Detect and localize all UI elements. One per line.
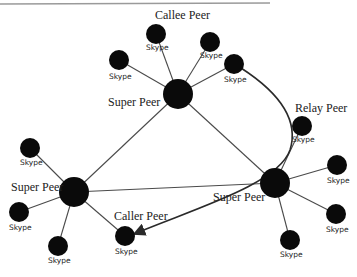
caller-peer-node xyxy=(115,226,135,246)
leaf-node xyxy=(224,54,244,74)
callee-peer-label: Callee Peer xyxy=(155,8,210,22)
callee-peer-node xyxy=(146,24,166,44)
super-peer-label-right: Super Peer xyxy=(213,190,265,204)
super-peer-left xyxy=(59,177,89,207)
top-rule xyxy=(0,3,270,4)
leaf-label: Skype xyxy=(48,256,71,265)
leaf-label: Skype xyxy=(327,176,350,185)
caller-peer-label: Caller Peer xyxy=(114,209,168,223)
skype-p2p-network-diagram: Skype Skype Skype Skype Skype Skype Skyp… xyxy=(0,0,357,277)
leaf-label: Skype xyxy=(224,75,247,84)
leaf-label: Skype xyxy=(200,51,223,60)
leaf-label: Skype xyxy=(280,250,303,259)
leaf-node xyxy=(48,236,68,256)
leaf-label: Skype xyxy=(326,225,349,234)
leaf-label: Skype xyxy=(115,247,138,256)
super-peer-label-center: Super Peer xyxy=(108,95,160,109)
leaf-node xyxy=(20,138,40,158)
super-peer-label-left: Super Peer xyxy=(11,180,63,194)
leaf-node xyxy=(327,155,347,175)
leaf-label: Skype xyxy=(9,223,32,232)
leaf-node xyxy=(9,202,29,222)
leaf-node xyxy=(200,32,220,52)
leaf-label: Skype xyxy=(109,72,132,81)
leaf-node xyxy=(326,204,346,224)
super-peer-center xyxy=(163,79,193,109)
leaf-node xyxy=(109,50,129,70)
leaf-label: Skype xyxy=(292,135,315,144)
leaf-label: Skype xyxy=(146,43,169,52)
relay-peer-node xyxy=(292,116,312,136)
relay-peer-label: Relay Peer xyxy=(295,101,347,115)
edge-center-right xyxy=(178,94,275,183)
leaf-node xyxy=(280,230,300,250)
leaf-label: Skype xyxy=(20,158,43,167)
